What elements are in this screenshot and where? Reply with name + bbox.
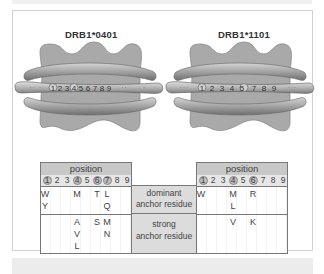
- position-8: 8: [268, 175, 278, 186]
- dominant-residue: Q: [102, 201, 112, 212]
- svg-text:· ·: · ·: [122, 84, 127, 90]
- strong-residue-row: AVLSMN: [41, 215, 131, 253]
- position-5: 5: [82, 175, 92, 186]
- position-3: 3: [218, 175, 228, 186]
- svg-text:9: 9: [272, 84, 277, 93]
- position-9: 9: [122, 175, 132, 186]
- position-3: 3: [62, 175, 72, 186]
- label-column-top-border: [132, 185, 196, 186]
- position-1-circled: 1: [42, 175, 52, 186]
- dominant-label-line2: anchor residue: [132, 199, 196, 210]
- dominant-residue: L: [228, 201, 238, 212]
- svg-text:7: 7: [252, 84, 257, 93]
- svg-text:· · ·: · · ·: [288, 84, 296, 90]
- position-2: 2: [208, 175, 218, 186]
- dominant-residue-row: WYMTLQ: [41, 187, 131, 215]
- position-2: 2: [52, 175, 62, 186]
- strong-label-line1: strong: [132, 219, 196, 230]
- dominant-label-cell: dominant anchor residue: [132, 185, 196, 214]
- dominant-residue: W: [196, 189, 206, 200]
- dominant-residue: T: [92, 189, 102, 200]
- anchor-table-left: position 123456789 WYMTLQ AVLSMN: [40, 162, 132, 254]
- svg-text:8: 8: [262, 84, 267, 93]
- position-6-circled: 6: [248, 175, 258, 186]
- svg-text:3: 3: [220, 84, 225, 93]
- svg-text:5: 5: [79, 84, 84, 93]
- position-number-row: 123456789: [41, 175, 131, 187]
- dominant-residue: M: [228, 189, 238, 200]
- position-6-circled: 6: [92, 175, 102, 186]
- svg-text:1: 1: [200, 84, 205, 93]
- position-9: 9: [278, 175, 288, 186]
- position-4-circled: 4: [228, 175, 238, 186]
- bottom-strip: [12, 258, 313, 274]
- strong-residue: V: [72, 229, 82, 240]
- dominant-residue: L: [102, 189, 112, 200]
- strong-residue: A: [72, 217, 82, 228]
- dominant-residue: M: [72, 189, 82, 200]
- position-5: 5: [238, 175, 248, 186]
- svg-text:· ·: · ·: [30, 84, 35, 90]
- strong-residue: L: [72, 241, 82, 252]
- anchor-table-right: position 123456789 WMLR VK: [196, 162, 288, 254]
- position-8: 8: [112, 175, 122, 186]
- strong-residue: V: [228, 217, 238, 228]
- anchor-label-column: dominant anchor residue strong anchor re…: [132, 185, 196, 254]
- dominant-residue: W: [40, 189, 50, 200]
- svg-text:3: 3: [65, 84, 70, 93]
- strong-label-line2: anchor residue: [132, 231, 196, 242]
- svg-text:4: 4: [230, 84, 235, 93]
- position-7-circled: 7: [102, 175, 112, 186]
- position-1-circled: 1: [198, 175, 208, 186]
- svg-text:2: 2: [58, 84, 63, 93]
- svg-text:2: 2: [210, 84, 215, 93]
- dominant-residue: R: [248, 189, 258, 200]
- dominant-residue: Y: [40, 201, 50, 212]
- strong-residue-row: VK: [197, 215, 287, 253]
- svg-text:6: 6: [86, 84, 91, 93]
- svg-text:9: 9: [107, 84, 112, 93]
- dominant-label-line1: dominant: [132, 188, 196, 199]
- svg-text:5: 5: [240, 84, 245, 93]
- strong-label-cell: strong anchor residue: [132, 214, 196, 253]
- svg-text:· · ·: · · ·: [180, 84, 188, 90]
- top-strip: [12, 0, 312, 4]
- mhc-molecule-left: 123 456 789 · ·· · ··: [12, 38, 164, 138]
- svg-text:4: 4: [72, 84, 77, 93]
- strong-residue: N: [102, 229, 112, 240]
- strong-residue: K: [248, 217, 258, 228]
- position-number-row: 123456789: [197, 175, 287, 187]
- svg-text:8: 8: [100, 84, 105, 93]
- position-4-circled: 4: [72, 175, 82, 186]
- dominant-residue-row: WMLR: [197, 187, 287, 215]
- strong-residue: S: [92, 217, 102, 228]
- mhc-molecule-right: 123 45 789 · · · · · ·: [164, 38, 316, 138]
- svg-text:1: 1: [51, 84, 56, 93]
- svg-text:7: 7: [93, 84, 98, 93]
- strong-residue: M: [102, 217, 112, 228]
- position-7: 7: [258, 175, 268, 186]
